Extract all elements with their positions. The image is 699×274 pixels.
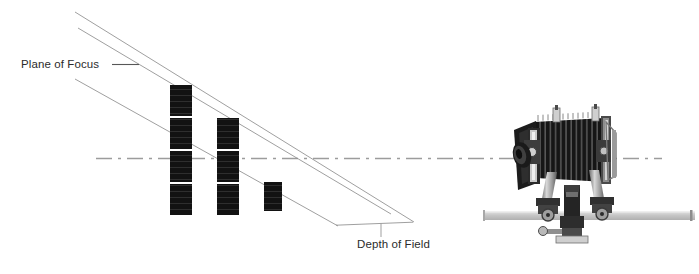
- far-limit-ray: [75, 79, 338, 226]
- view-camera: [483, 104, 695, 243]
- subject-column-mid: [217, 118, 239, 215]
- depth-of-field-label: Depth of Field: [357, 238, 430, 250]
- diagram-vector-layer: [0, 0, 699, 274]
- diagram-canvas: Plane of Focus Depth of Field: [0, 0, 699, 274]
- ray-bundle: [75, 12, 414, 226]
- standard-knobs: [553, 104, 599, 122]
- camera-rail: [483, 210, 695, 221]
- near-limit-ray: [75, 12, 414, 222]
- plane-of-focus-label: Plane of Focus: [21, 58, 99, 70]
- depth-of-field-bracket: [336, 222, 413, 237]
- subject-column-near: [170, 85, 192, 215]
- subject-column-far: [264, 182, 282, 211]
